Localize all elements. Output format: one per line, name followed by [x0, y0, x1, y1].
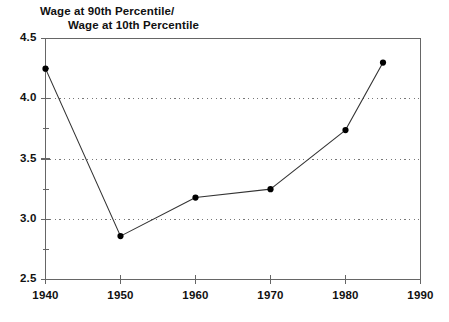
chart-figure: Wage at 90th Percentile/ Wage at 10th Pe…: [0, 0, 449, 322]
x-axis-tick-label: 1940: [23, 289, 69, 301]
y-axis-tick-label: 2.5: [7, 272, 37, 284]
data-point-marker: [342, 127, 348, 133]
x-axis-tick-label: 1990: [398, 289, 444, 301]
x-axis-tick-label: 1980: [323, 289, 369, 301]
y-axis-tick-label: 3.0: [7, 212, 37, 224]
series-line: [46, 63, 384, 237]
data-point-marker: [117, 233, 123, 239]
data-point-marker: [42, 66, 48, 72]
data-point-marker: [192, 194, 198, 200]
x-axis-tick-label: 1970: [248, 289, 294, 301]
plot-area: [0, 0, 449, 322]
data-point-marker: [380, 60, 386, 66]
y-axis-tick-label: 4.0: [7, 91, 37, 103]
y-axis-tick-label: 3.5: [7, 152, 37, 164]
x-axis-tick-label: 1960: [173, 289, 219, 301]
x-axis-tick-label: 1950: [98, 289, 144, 301]
y-axis-tick-label: 4.5: [7, 31, 37, 43]
data-point-marker: [267, 186, 273, 192]
